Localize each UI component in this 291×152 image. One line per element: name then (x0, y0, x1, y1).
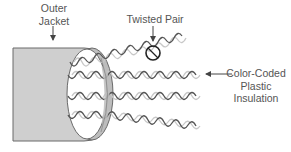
insulation-label-line-1: Color-Coded (218, 67, 291, 80)
outer-jacket-label-line-1: Outer (24, 2, 84, 15)
insulation-label-line-2: Plastic (218, 80, 291, 93)
insulation-label-line-3: Insulation (218, 92, 291, 105)
twisted-pair-label: Twisted Pair (119, 13, 191, 26)
cable-diagram: Outer Jacket Twisted Pair Color-Coded Pl… (0, 0, 291, 152)
outer-jacket (13, 48, 113, 141)
outer-jacket-label: Outer Jacket (24, 2, 84, 27)
outer-jacket-label-line-2: Jacket (24, 15, 84, 28)
insulation-label: Color-Coded Plastic Insulation (218, 67, 291, 105)
